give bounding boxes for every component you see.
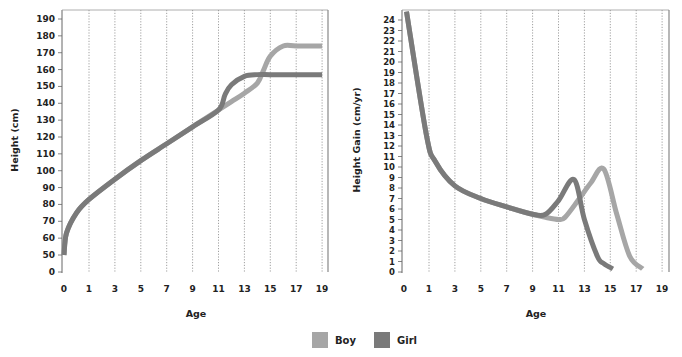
x-tick-label: 5 <box>478 284 484 294</box>
x-tick-label: 7 <box>504 284 510 294</box>
legend: Boy Girl <box>312 332 427 348</box>
x-axis-label: Age <box>526 308 547 319</box>
y-tick-label: 9 <box>389 173 395 183</box>
y-tick-label: 80 <box>42 199 55 209</box>
x-tick-label: 7 <box>164 284 170 294</box>
x-tick-label: 1 <box>86 284 92 294</box>
y-axis-label: Height (cm) <box>9 108 20 171</box>
x-tick-label: 0 <box>61 284 67 294</box>
x-tick-label: 3 <box>452 284 458 294</box>
x-tick-label: 9 <box>529 284 535 294</box>
y-tick-label: 60 <box>42 233 55 243</box>
x-axis-label: Age <box>186 308 207 319</box>
legend-item-girl: Girl <box>374 332 417 348</box>
y-tick-label: 50 <box>42 250 55 260</box>
x-tick-label: 11 <box>552 284 565 294</box>
legend-label-girl: Girl <box>397 335 417 346</box>
y-tick-label: 22 <box>383 36 395 46</box>
legend-swatch-girl <box>374 332 390 348</box>
x-tick-label: 11 <box>212 284 225 294</box>
y-tick-label: 170 <box>36 48 55 58</box>
x-tick-label: 15 <box>264 284 277 294</box>
y-tick-label: 23 <box>383 26 395 36</box>
y-tick-label: 120 <box>36 132 55 142</box>
y-tick-label: 10 <box>383 162 395 172</box>
y-tick-label: 0 <box>49 267 55 277</box>
series-line-boy <box>407 12 643 269</box>
x-tick-label: 19 <box>656 284 669 294</box>
x-tick-label: 9 <box>189 284 195 294</box>
y-tick-label: 14 <box>383 120 395 130</box>
legend-item-boy: Boy <box>312 332 356 348</box>
x-tick-label: 1 <box>426 284 432 294</box>
y-tick-label: 11 <box>383 152 395 162</box>
series-line-girl <box>407 12 613 269</box>
y-tick-label: 190 <box>36 14 55 24</box>
y-tick-label: 18 <box>383 78 395 88</box>
height-gain-chart: 0123456789101112131415161718192021222324… <box>351 10 669 319</box>
charts-canvas: 0506070809010011012013014015016017018019… <box>0 0 682 357</box>
height-chart: 0506070809010011012013014015016017018019… <box>9 10 328 319</box>
y-tick-label: 13 <box>383 131 395 141</box>
legend-swatch-boy <box>312 332 328 348</box>
y-tick-label: 130 <box>36 115 55 125</box>
y-tick-label: 17 <box>383 89 395 99</box>
y-tick-label: 140 <box>36 98 55 108</box>
series-line-girl <box>64 75 322 255</box>
x-tick-label: 3 <box>112 284 118 294</box>
y-tick-label: 180 <box>36 31 55 41</box>
x-tick-label: 13 <box>238 284 251 294</box>
y-tick-label: 12 <box>383 141 395 151</box>
y-tick-label: 5 <box>389 215 395 225</box>
x-tick-label: 13 <box>578 284 591 294</box>
x-tick-label: 19 <box>316 284 329 294</box>
y-tick-label: 24 <box>383 15 395 25</box>
y-tick-label: 7 <box>389 194 395 204</box>
y-tick-label: 3 <box>389 236 395 246</box>
y-tick-label: 15 <box>383 110 395 120</box>
y-tick-label: 8 <box>389 183 395 193</box>
x-tick-label: 15 <box>604 284 617 294</box>
y-tick-label: 19 <box>383 68 395 78</box>
x-tick-label: 17 <box>290 284 303 294</box>
x-tick-label: 5 <box>138 284 144 294</box>
y-tick-label: 4 <box>389 225 395 235</box>
x-tick-label: 17 <box>630 284 643 294</box>
y-tick-label: 100 <box>36 166 55 176</box>
y-tick-label: 20 <box>383 57 395 67</box>
y-tick-label: 160 <box>36 65 55 75</box>
y-tick-label: 150 <box>36 81 55 91</box>
y-tick-label: 21 <box>383 47 395 57</box>
legend-label-boy: Boy <box>335 335 356 346</box>
y-tick-label: 0 <box>389 267 395 277</box>
y-tick-label: 110 <box>36 149 55 159</box>
y-tick-label: 1 <box>389 257 395 267</box>
y-tick-label: 16 <box>383 99 395 109</box>
y-tick-label: 6 <box>389 204 395 214</box>
y-tick-label: 2 <box>389 246 395 256</box>
y-tick-label: 90 <box>42 183 55 193</box>
y-axis-label: Height Gain (cm/yr) <box>351 87 362 192</box>
x-tick-label: 0 <box>401 284 407 294</box>
y-tick-label: 70 <box>42 216 55 226</box>
